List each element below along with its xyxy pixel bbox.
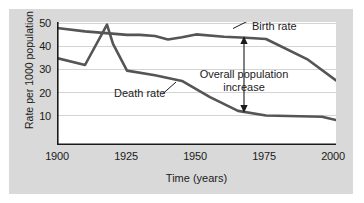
- y-tick-20: 20: [29, 87, 51, 99]
- x-tick-1900: 1900: [37, 150, 77, 162]
- y-tick-10: 10: [29, 110, 51, 122]
- y-tick-50: 50: [29, 17, 51, 29]
- y-tick-30: 30: [29, 63, 51, 75]
- x-axis-label: Time (years): [57, 172, 336, 184]
- birth-rate-annotation: Birth rate: [252, 20, 297, 32]
- figure-panel: Rate per 1000 population 50 40 30 20 10 …: [9, 9, 353, 194]
- overall-increase-annotation: Overall population increase: [190, 68, 298, 94]
- x-tick-2000: 2000: [313, 150, 353, 162]
- x-tick-1975: 1975: [244, 150, 284, 162]
- x-tick-1950: 1950: [175, 150, 215, 162]
- birth-rate-leader-line: [233, 22, 249, 29]
- death-rate-annotation: Death rate: [114, 87, 165, 99]
- x-tick-1925: 1925: [106, 150, 146, 162]
- y-tick-40: 40: [29, 40, 51, 52]
